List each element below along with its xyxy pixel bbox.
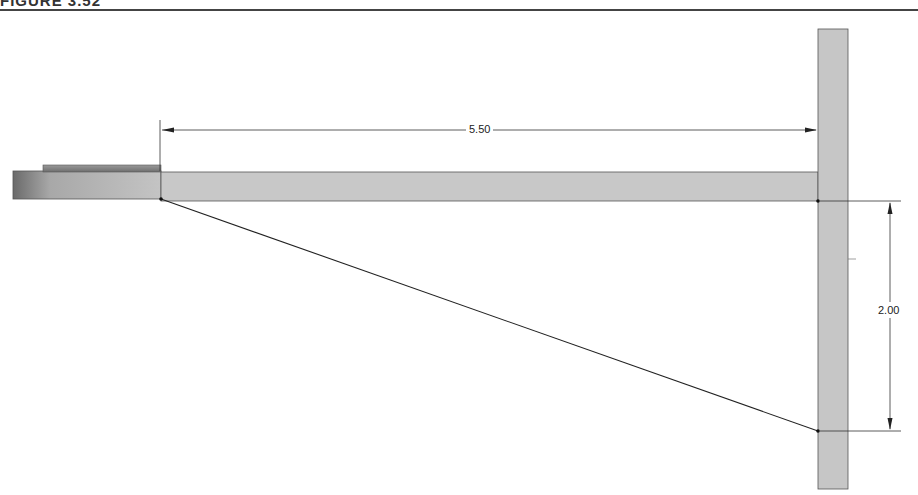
bracket-drawing bbox=[0, 0, 918, 495]
left-tab bbox=[43, 165, 161, 172]
vertical-plate bbox=[818, 29, 848, 489]
horizontal-arm bbox=[161, 172, 818, 201]
diagonal-brace bbox=[161, 199, 818, 431]
left-end-block bbox=[13, 171, 161, 199]
dimension-label-horizontal: 5.50 bbox=[466, 123, 493, 135]
dimension-label-vertical: 2.00 bbox=[876, 302, 901, 318]
